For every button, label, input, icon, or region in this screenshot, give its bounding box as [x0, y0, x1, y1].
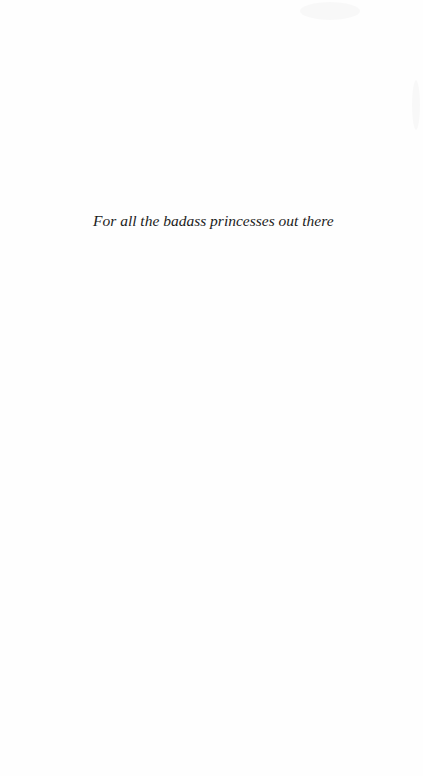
paper-texture — [300, 2, 360, 20]
book-page: For all the badass princesses out there — [0, 0, 423, 776]
paper-texture — [412, 80, 420, 130]
dedication-text: For all the badass princesses out there — [93, 212, 334, 230]
